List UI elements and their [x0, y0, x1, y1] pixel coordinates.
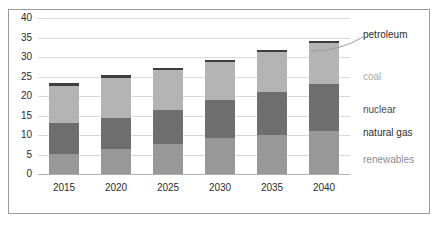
bar-segment-natural-gas: [257, 92, 287, 135]
y-axis-tick-label: 25: [21, 72, 32, 82]
legend-label-coal: coal: [363, 72, 381, 82]
bar-segment-renewables: [205, 138, 235, 174]
bar-segment-natural-gas: [309, 84, 339, 132]
bar-segment-natural-gas: [49, 123, 79, 154]
bar-segment-petroleum: [309, 41, 339, 43]
gridline: [38, 155, 350, 156]
bar-segment-natural-gas: [205, 100, 235, 138]
legend-label-nuclear: nuclear: [363, 105, 396, 115]
stacked-bar: 2035: [257, 18, 287, 174]
legend-label-renewables: renewables: [363, 155, 414, 165]
bar-segment-coal: [49, 86, 79, 123]
y-axis-tick-label: 10: [21, 130, 32, 140]
bar-segment-renewables: [153, 144, 183, 174]
gridline: [38, 18, 350, 19]
bar-segment-petroleum: [101, 75, 131, 77]
bar-segment-petroleum: [205, 60, 235, 62]
plot-area: 0510152025303540 20152020202520302035204…: [38, 18, 350, 174]
energy-outlook-stacked-bar-chart: 0510152025303540 20152020202520302035204…: [0, 0, 440, 227]
bar-segment-renewables: [101, 149, 131, 174]
stacked-bar: 2030: [205, 18, 235, 174]
gridline: [38, 135, 350, 136]
x-axis-tick-label: 2025: [145, 183, 191, 193]
bar-segment-renewables: [309, 131, 339, 174]
x-axis-tick-label: 2035: [249, 183, 295, 193]
x-axis-tick-label: 2015: [41, 183, 87, 193]
bar-segment-natural-gas: [101, 118, 131, 149]
x-axis-tick-label: 2020: [93, 183, 139, 193]
y-axis-tick-label: 40: [21, 13, 32, 23]
bar-segment-coal: [309, 43, 339, 84]
gridline: [38, 116, 350, 117]
y-axis-tick-label: 20: [21, 91, 32, 101]
bar-segment-coal: [101, 78, 131, 118]
bar-segment-renewables: [257, 135, 287, 174]
gridline: [38, 77, 350, 78]
stacked-bar: 2025: [153, 18, 183, 174]
gridline: [38, 57, 350, 58]
bar-segment-natural-gas: [153, 110, 183, 144]
y-axis-tick-label: 0: [26, 169, 32, 179]
stacked-bar: 2020: [101, 18, 131, 174]
y-axis-tick-label: 35: [21, 33, 32, 43]
y-axis-tick-label: 5: [26, 150, 32, 160]
gridline: [38, 174, 350, 175]
legend-label-natural-gas: natural gas: [363, 128, 412, 138]
bar-segment-renewables: [49, 154, 79, 174]
gridline: [38, 96, 350, 97]
legend-label-petroleum: petroleum: [363, 30, 407, 40]
stacked-bar: 2015: [49, 18, 79, 174]
bar-segment-petroleum: [49, 83, 79, 86]
bar-segment-petroleum: [257, 50, 287, 52]
bar-segment-coal: [205, 62, 235, 101]
x-axis-tick-label: 2040: [301, 183, 347, 193]
x-axis-tick-label: 2030: [197, 183, 243, 193]
y-axis-tick-label: 15: [21, 111, 32, 121]
bar-segment-coal: [257, 52, 287, 91]
gridline: [38, 38, 350, 39]
y-axis-tick-label: 30: [21, 52, 32, 62]
bar-segment-coal: [153, 70, 183, 110]
bar-segment-petroleum: [153, 68, 183, 70]
stacked-bar: 2040: [309, 18, 339, 174]
